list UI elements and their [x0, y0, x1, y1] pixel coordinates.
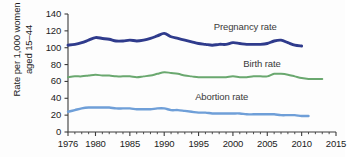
series-line-abortion-rate — [68, 107, 309, 116]
series-line-pregnancy-rate — [68, 33, 302, 46]
series-lines — [68, 33, 322, 116]
series-line-birth-rate — [68, 72, 322, 79]
